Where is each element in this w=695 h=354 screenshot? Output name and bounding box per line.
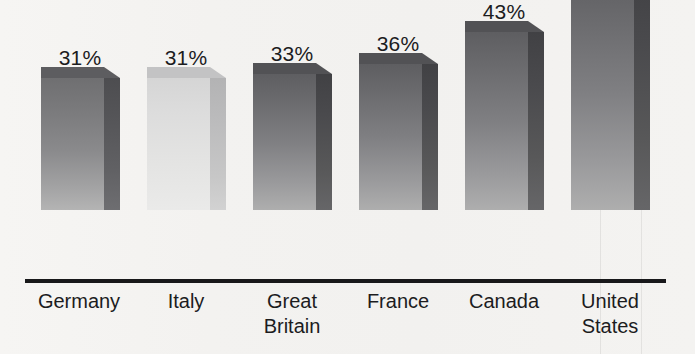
bar-front-face-united-states xyxy=(571,0,634,210)
bar-top-face-france xyxy=(359,53,438,64)
bar-top-face-germany xyxy=(41,67,120,78)
plot-area: 31% 31% 33% 36% 43% xyxy=(0,0,695,282)
axis-baseline xyxy=(25,279,666,283)
bar-top-face-italy xyxy=(147,67,226,78)
bar-side-face-united-states xyxy=(634,0,650,210)
category-label-canada: Canada xyxy=(444,289,564,314)
bar-top-face-great-britain xyxy=(253,63,332,74)
bar-side-face-germany xyxy=(104,78,120,210)
bar-side-face-great-britain xyxy=(316,74,332,210)
category-label-great-britain: Great Britain xyxy=(232,289,352,339)
bar-front-face-france xyxy=(359,64,422,210)
category-label-germany: Germany xyxy=(19,289,139,314)
bar-top-face-canada xyxy=(465,21,544,32)
bar-side-face-canada xyxy=(528,32,544,210)
bar-front-face-canada xyxy=(465,32,528,210)
bar-front-face-germany xyxy=(41,78,104,210)
bar-side-face-france xyxy=(422,64,438,210)
category-axis: Germany Italy Great Britain France Canad… xyxy=(0,285,695,354)
category-label-united-states: United States xyxy=(550,289,670,339)
category-label-france: France xyxy=(338,289,458,314)
category-label-italy: Italy xyxy=(126,289,246,314)
bar-front-face-great-britain xyxy=(253,74,316,210)
bar-front-face-italy xyxy=(147,78,210,210)
bar-chart: 31% 31% 33% 36% 43% xyxy=(0,0,695,354)
bar-side-face-italy xyxy=(210,78,226,210)
